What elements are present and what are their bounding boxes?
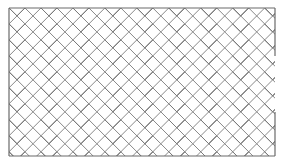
brick-field — [0, 0, 286, 165]
herringbone-pattern-figure — [0, 0, 286, 165]
herringbone-svg — [0, 0, 286, 165]
